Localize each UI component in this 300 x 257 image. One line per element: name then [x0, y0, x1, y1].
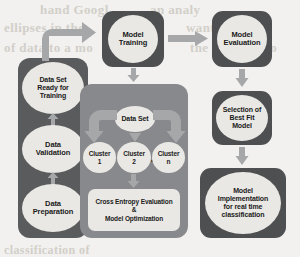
node-model-evaluation[interactable]: Model Evaluation [217, 15, 267, 63]
node-label-line-3: Model [232, 122, 252, 130]
node-label-line-3: Model Optimization [105, 215, 163, 222]
node-label-line-2: Training [119, 39, 147, 47]
arrow-down-evaluation-to-best-fit [235, 69, 249, 87]
node-model-implementation[interactable]: Model Implementation for real time class… [205, 172, 281, 234]
node-label-line-1: Cluster [89, 150, 111, 157]
node-label-line-2: & [132, 206, 137, 213]
node-label-line-2: Preparation [33, 208, 74, 216]
node-label-line-2: n [167, 158, 171, 165]
background-text-line-7: classification of [4, 243, 90, 257]
node-data-set[interactable]: Data Set [115, 106, 155, 132]
node-cluster-2[interactable]: Cluster 2 [117, 142, 151, 173]
background-text-line-1: hand Googl [40, 2, 109, 18]
node-label-line-3: for real time [224, 203, 263, 211]
node-label: Data Set [121, 115, 148, 123]
node-label-line-2: 1 [98, 158, 102, 165]
diagram-canvas: hand Googl an analy ellipses in the want… [0, 0, 300, 257]
node-label-line-2: Implementation [218, 195, 268, 203]
node-label-line-3: Training [40, 92, 66, 100]
node-label-line-2: Evaluation [224, 39, 261, 47]
node-label-line-1: Model [233, 187, 253, 195]
node-data-preparation[interactable]: Data Preparation [22, 184, 84, 232]
arrow-down-dataset-to-cluster-2 [129, 133, 141, 142]
node-data-set-ready-for-training[interactable]: Data Set Ready for Training [22, 62, 84, 114]
arrow-elbow-dataset-to-cluster-1 [87, 110, 117, 143]
node-label-line-1: Selection of [223, 106, 261, 114]
node-label-line-1: Cluster [158, 150, 180, 157]
node-label-line-4: classification [222, 211, 265, 219]
arrow-down-best-fit-to-implementation [235, 147, 249, 165]
arrow-down-clusters-to-evaluation [127, 174, 140, 188]
node-cross-entropy-evaluation[interactable]: Cross Entropy Evaluation & Model Optimiz… [88, 189, 180, 231]
node-cluster-1[interactable]: Cluster 1 [83, 142, 116, 173]
node-model-training[interactable]: Model Training [108, 15, 158, 63]
node-label-line-1: Cross Entropy Evaluation [95, 198, 172, 205]
arrow-down-training-to-clustering [127, 68, 140, 82]
node-label-line-1: Data Set [39, 76, 66, 84]
node-label-line-1: Cluster [123, 150, 145, 157]
node-label-line-2: Best Fit [230, 114, 255, 122]
arrow-right-training-to-evaluation [168, 31, 208, 46]
node-selection-of-best-fit-model[interactable]: Selection of Best Fit Model [216, 95, 268, 141]
node-data-validation[interactable]: Data Validation [22, 125, 84, 173]
node-label-line-2: Validation [36, 149, 70, 157]
node-cluster-n[interactable]: Cluster n [152, 142, 185, 173]
node-label-line-2: Ready for [37, 84, 68, 92]
arrow-elbow-dataset-to-cluster-n [153, 110, 183, 143]
arrow-elbow-dataset-to-model-training [36, 17, 98, 61]
node-label-line-2: 2 [132, 158, 136, 165]
